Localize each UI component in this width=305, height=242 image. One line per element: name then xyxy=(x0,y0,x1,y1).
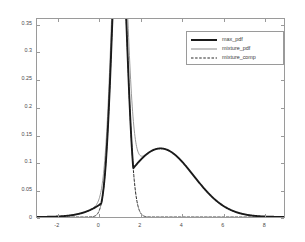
y-tick-mark xyxy=(281,80,284,81)
y-tick-mark xyxy=(37,52,40,53)
y-tick-label: 0.3 xyxy=(25,49,33,54)
x-tick-mark xyxy=(224,19,225,22)
y-tick-mark xyxy=(281,163,284,164)
x-tick-mark xyxy=(182,214,183,217)
legend-item: max_pdf xyxy=(191,35,279,44)
x-tick-mark xyxy=(141,19,142,22)
x-tick-mark xyxy=(58,19,59,22)
x-tick-mark xyxy=(224,214,225,217)
x-axis-tick-labels: -202468 xyxy=(36,219,285,233)
y-tick-mark xyxy=(281,108,284,109)
legend-label: mixture_comp xyxy=(222,55,256,60)
y-tick-mark xyxy=(37,163,40,164)
y-tick-label: 0.2 xyxy=(25,104,33,109)
x-tick-label: 0 xyxy=(97,223,100,228)
y-tick-mark xyxy=(281,25,284,26)
legend-line-sample-mixture-comp xyxy=(191,55,217,61)
y-tick-label: 0.25 xyxy=(22,76,33,81)
y-tick-mark xyxy=(281,136,284,137)
legend-line-sample-max-pdf xyxy=(191,37,217,43)
legend-label: max_pdf xyxy=(222,37,243,42)
x-tick-mark xyxy=(58,214,59,217)
y-tick-label: 0.15 xyxy=(22,132,33,137)
x-tick-label: 8 xyxy=(263,223,266,228)
y-tick-mark xyxy=(281,191,284,192)
y-tick-mark xyxy=(37,108,40,109)
x-tick-label: 6 xyxy=(221,223,224,228)
y-tick-mark xyxy=(37,80,40,81)
y-tick-mark xyxy=(37,191,40,192)
x-tick-mark xyxy=(99,214,100,217)
x-tick-label: -2 xyxy=(54,223,59,228)
x-tick-mark xyxy=(182,19,183,22)
x-tick-mark xyxy=(265,19,266,22)
y-tick-label: 0.35 xyxy=(22,21,33,26)
y-tick-mark xyxy=(37,25,40,26)
legend-line-sample-mixture-pdf xyxy=(191,46,217,52)
y-tick-mark xyxy=(37,136,40,137)
legend: max_pdf mixture_pdf mixture_comp xyxy=(186,31,284,65)
figure: 00.050.10.150.20.250.30.35 -202468 max_p… xyxy=(0,0,305,242)
y-axis-tick-labels: 00.050.10.150.20.250.30.35 xyxy=(6,18,32,218)
legend-item: mixture_comp xyxy=(191,53,279,62)
x-tick-mark xyxy=(141,214,142,217)
x-tick-mark xyxy=(99,19,100,22)
legend-label: mixture_pdf xyxy=(222,46,250,51)
x-tick-mark xyxy=(265,214,266,217)
x-tick-label: 2 xyxy=(138,223,141,228)
x-tick-label: 4 xyxy=(180,223,183,228)
y-tick-label: 0.05 xyxy=(22,188,33,193)
y-tick-label: 0 xyxy=(29,215,32,220)
legend-item: mixture_pdf xyxy=(191,44,279,53)
y-tick-label: 0.1 xyxy=(25,160,33,165)
